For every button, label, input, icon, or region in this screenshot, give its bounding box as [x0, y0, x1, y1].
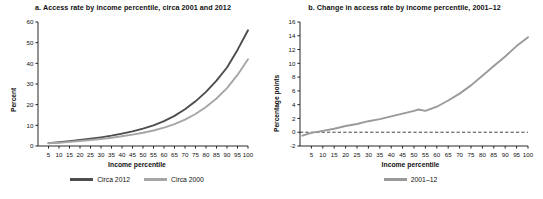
- svg-text:90: 90: [224, 151, 231, 158]
- legend-item[interactable]: 2001–12: [384, 176, 437, 183]
- svg-text:8: 8: [292, 73, 296, 80]
- panel-a-legend: Circa 2012Circa 2000: [4, 176, 270, 183]
- svg-text:60: 60: [161, 151, 168, 158]
- svg-text:70: 70: [182, 151, 189, 158]
- svg-text:50: 50: [140, 151, 147, 158]
- chart-panel-a: a. Access rate by income percentile, cir…: [0, 0, 266, 199]
- svg-text:12: 12: [289, 46, 296, 53]
- svg-text:5: 5: [310, 151, 314, 158]
- svg-text:55: 55: [150, 151, 157, 158]
- svg-text:95: 95: [513, 151, 520, 158]
- svg-text:30: 30: [98, 151, 105, 158]
- svg-text:95: 95: [234, 151, 241, 158]
- svg-text:50: 50: [27, 39, 34, 46]
- svg-text:0: 0: [30, 142, 34, 149]
- svg-text:80: 80: [479, 151, 486, 158]
- svg-text:10: 10: [56, 151, 63, 158]
- svg-text:20: 20: [342, 151, 349, 158]
- svg-text:45: 45: [399, 151, 406, 158]
- svg-text:85: 85: [213, 151, 220, 158]
- svg-text:20: 20: [27, 101, 34, 108]
- panel-b-legend: 2001–12: [272, 176, 543, 183]
- svg-text:10: 10: [27, 122, 34, 129]
- svg-text:65: 65: [445, 151, 452, 158]
- svg-text:15: 15: [331, 151, 338, 158]
- legend-label: Circa 2012: [97, 176, 130, 183]
- svg-text:40: 40: [388, 151, 395, 158]
- svg-text:45: 45: [129, 151, 136, 158]
- svg-text:4: 4: [292, 101, 296, 108]
- legend-label: 2001–12: [411, 176, 437, 183]
- panel-b-x-axis-label: Income percentile: [272, 161, 543, 168]
- svg-text:10: 10: [289, 60, 296, 67]
- svg-text:30: 30: [27, 80, 34, 87]
- svg-text:85: 85: [490, 151, 497, 158]
- svg-text:55: 55: [422, 151, 429, 158]
- svg-text:25: 25: [87, 151, 94, 158]
- svg-text:80: 80: [203, 151, 210, 158]
- svg-text:40: 40: [27, 60, 34, 67]
- legend-item[interactable]: Circa 2012: [70, 176, 130, 183]
- svg-text:20: 20: [77, 151, 84, 158]
- chart-panel-b: b. Change in access rate by income perce…: [266, 0, 543, 199]
- svg-text:75: 75: [192, 151, 199, 158]
- legend-swatch: [70, 178, 93, 180]
- legend-label: Circa 2000: [171, 176, 204, 183]
- svg-text:70: 70: [456, 151, 463, 158]
- svg-text:75: 75: [468, 151, 475, 158]
- legend-swatch: [144, 178, 167, 180]
- legend-item[interactable]: Circa 2000: [144, 176, 204, 183]
- panel-a-plot: 0102030405060510152025303540455055606570…: [0, 0, 266, 199]
- svg-text:25: 25: [354, 151, 361, 158]
- panel-a-x-axis-label: Income percentile: [4, 161, 270, 168]
- figure-container: a. Access rate by income percentile, cir…: [0, 0, 543, 199]
- legend-swatch: [384, 178, 407, 180]
- svg-text:50: 50: [411, 151, 418, 158]
- svg-text:15: 15: [66, 151, 73, 158]
- svg-text:10: 10: [319, 151, 326, 158]
- svg-text:65: 65: [171, 151, 178, 158]
- svg-text:-2: -2: [290, 142, 296, 149]
- svg-text:35: 35: [376, 151, 383, 158]
- svg-text:60: 60: [27, 18, 34, 25]
- svg-text:30: 30: [365, 151, 372, 158]
- svg-text:2: 2: [292, 115, 296, 122]
- svg-text:14: 14: [289, 32, 296, 39]
- svg-text:5: 5: [47, 151, 51, 158]
- svg-text:16: 16: [289, 18, 296, 25]
- panel-b-plot: -202468101214165101520253035404550556065…: [266, 0, 543, 199]
- svg-text:90: 90: [502, 151, 509, 158]
- svg-text:6: 6: [292, 87, 296, 94]
- svg-text:60: 60: [433, 151, 440, 158]
- svg-text:0: 0: [292, 128, 296, 135]
- svg-text:35: 35: [108, 151, 115, 158]
- svg-text:100: 100: [523, 151, 534, 158]
- svg-text:100: 100: [243, 151, 254, 158]
- svg-text:40: 40: [119, 151, 126, 158]
